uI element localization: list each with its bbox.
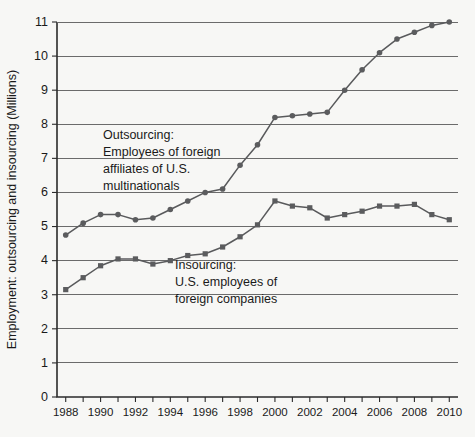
data-point-1997	[220, 186, 226, 192]
data-point-2006	[377, 203, 382, 208]
data-point-1999	[255, 142, 261, 148]
data-point-1992	[133, 217, 139, 223]
x-axis-ticks-group: 1988199019921994199619982000200220042006…	[53, 397, 462, 418]
x-tick-label-1996: 1996	[192, 406, 218, 418]
data-point-2009	[429, 212, 434, 217]
axes-group	[57, 22, 458, 397]
data-point-1999	[255, 222, 260, 227]
outsourcing-label-line-4: multinationals	[103, 179, 179, 193]
data-point-2010	[446, 19, 452, 25]
data-point-2005	[360, 209, 365, 214]
data-point-2008	[412, 29, 418, 35]
data-point-1996	[203, 251, 208, 256]
x-tick-label-1988: 1988	[53, 406, 79, 418]
data-point-1996	[202, 190, 208, 196]
data-point-2001	[290, 113, 296, 119]
insourcing-label: Insourcing:U.S. employees offoreign comp…	[175, 258, 278, 306]
x-tick-label-1998: 1998	[227, 406, 253, 418]
data-point-1998	[237, 234, 242, 239]
chart-canvas: 01234567891011 1988199019921994199619982…	[0, 0, 475, 437]
data-point-1998	[237, 162, 243, 168]
x-tick-label-1992: 1992	[123, 406, 149, 418]
data-point-2005	[359, 67, 365, 73]
data-point-2003	[325, 215, 330, 220]
data-point-1988	[63, 232, 69, 238]
insourcing-label-line-2: U.S. employees of	[175, 275, 278, 289]
data-point-1991	[115, 212, 121, 218]
x-tick-label-1994: 1994	[158, 406, 184, 418]
annotations-group: Outsourcing:Employees of foreignaffiliat…	[103, 128, 278, 306]
x-tick-label-1990: 1990	[88, 406, 114, 418]
outsourcing-label-line-3: affiliates of U.S.	[103, 162, 190, 176]
y-tick-label-3: 3	[41, 288, 48, 302]
data-point-2007	[394, 203, 399, 208]
data-point-2002	[307, 111, 313, 117]
y-tick-label-6: 6	[41, 185, 48, 199]
data-point-2009	[429, 23, 435, 29]
insourcing-label-line-3: foreign companies	[175, 292, 277, 306]
y-tick-label-0: 0	[41, 390, 48, 404]
data-point-1997	[220, 244, 225, 249]
data-point-2002	[307, 205, 312, 210]
y-tick-label-1: 1	[41, 356, 48, 370]
data-point-2006	[377, 50, 383, 56]
y-tick-label-8: 8	[41, 117, 48, 131]
data-point-2010	[447, 217, 452, 222]
data-point-2000	[272, 115, 278, 121]
y-tick-label-11: 11	[35, 15, 48, 29]
data-point-1994	[168, 258, 173, 263]
insourcing-label-line-1: Insourcing:	[175, 258, 236, 272]
y-axis-title: Employment: outsourcing and insourcing (…	[5, 70, 19, 349]
data-point-1991	[115, 256, 120, 261]
data-point-1990	[98, 212, 104, 218]
outsourcing-label-line-1: Outsourcing:	[103, 128, 174, 142]
data-point-1989	[81, 275, 86, 280]
data-point-1995	[185, 198, 191, 204]
data-point-2004	[342, 212, 347, 217]
data-point-1994	[168, 207, 174, 213]
axis-lines	[57, 22, 458, 397]
x-tick-label-2004: 2004	[332, 406, 358, 418]
y-axis-ticks-group: 01234567891011	[34, 15, 57, 404]
x-tick-label-2002: 2002	[297, 406, 323, 418]
x-tick-label-2000: 2000	[262, 406, 288, 418]
outsourcing-label-line-2: Employees of foreign	[103, 145, 220, 159]
data-point-2008	[412, 202, 417, 207]
data-point-1990	[98, 263, 103, 268]
y-tick-label-10: 10	[34, 49, 48, 63]
y-tick-label-4: 4	[41, 253, 48, 267]
data-point-1988	[63, 287, 68, 292]
axis-titles-group: Employment: outsourcing and insourcing (…	[5, 70, 19, 349]
data-point-1989	[80, 220, 86, 226]
y-tick-label-5: 5	[41, 219, 48, 233]
x-tick-label-2006: 2006	[367, 406, 393, 418]
data-point-2003	[324, 110, 330, 116]
data-point-1992	[133, 256, 138, 261]
employment-outsourcing-insourcing-chart: 01234567891011 1988199019921994199619982…	[0, 0, 475, 437]
x-tick-label-2008: 2008	[402, 406, 428, 418]
y-tick-label-9: 9	[41, 83, 48, 97]
x-tick-label-2010: 2010	[436, 406, 462, 418]
y-tick-label-7: 7	[41, 151, 48, 165]
data-point-2001	[290, 203, 295, 208]
data-point-1993	[150, 261, 155, 266]
data-point-2007	[394, 36, 400, 42]
outsourcing-label: Outsourcing:Employees of foreignaffiliat…	[103, 128, 220, 193]
data-point-2004	[342, 87, 348, 93]
data-point-1993	[150, 215, 156, 221]
data-point-2000	[272, 198, 277, 203]
y-tick-label-2: 2	[41, 322, 48, 336]
